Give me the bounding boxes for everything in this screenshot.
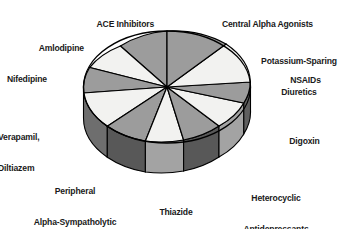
label-peripheral-alpha-sympatholytic: Peripheral Alpha-Sympatholytic (Doxazosi… [9,165,141,229]
label-ace-inhibitors-text: ACE Inhibitors [97,19,155,29]
label-thiazide-diuretics: Thiazide Diuretics [136,186,216,229]
label-digoxin-text: Digoxin [289,136,319,146]
label-heterocyclic-line2: Antidepressants [218,224,334,229]
label-nifedipine-text: Nifedipine [7,74,47,84]
label-heterocyclic-line1: Heterocyclic [218,193,334,203]
label-thiazide-line1: Thiazide [136,207,216,217]
label-nifedipine: Nifedipine [0,64,80,95]
label-heterocyclic-antidepressants: Heterocyclic Antidepressants [218,172,334,229]
pie-chart-figure: ACE Inhibitors Central Alpha Agonists Am… [0,0,362,229]
label-nsaids-text: NSAIDs [290,75,321,85]
label-amlodipine-text: Amlodipine [39,43,84,53]
label-nsaids: NSAIDs [258,65,344,96]
label-amlodipine: Amlodipine [30,33,115,64]
label-peripheral-line2: Alpha-Sympatholytic [9,217,141,227]
label-peripheral-line1: Peripheral [9,186,141,196]
rim-panel-3 [145,140,183,173]
label-central-alpha-agonists-text: Central Alpha Agonists [222,19,313,29]
label-digoxin: Digoxin [256,126,344,157]
label-verapamil-line1: Verapamil, [0,132,78,142]
